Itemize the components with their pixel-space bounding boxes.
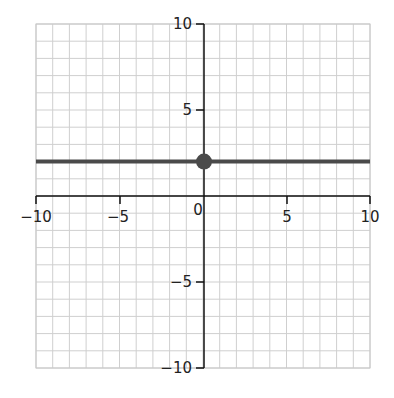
y-tick-label: −5	[170, 273, 192, 291]
x-tick-label: 5	[282, 208, 292, 226]
origin-label: 0	[193, 201, 203, 219]
intercept-point	[196, 154, 212, 170]
coordinate-plane: −10 −5 0 5 10 10 5 −5 −10	[0, 0, 394, 398]
y-tick-label: 5	[182, 101, 192, 119]
x-tick-label: −5	[107, 208, 129, 226]
x-tick-label: 10	[360, 208, 379, 226]
x-tick-label: −10	[20, 208, 52, 226]
y-tick-label: 10	[173, 15, 192, 33]
y-tick-label: −10	[160, 359, 192, 377]
